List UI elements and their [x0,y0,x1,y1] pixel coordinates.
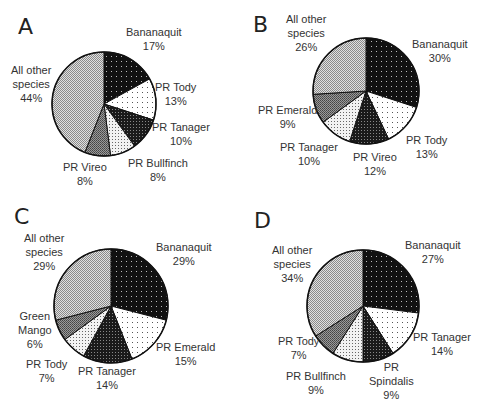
panel-letter-b: B [253,12,268,37]
label-a-pr-bullfinch: PR Bullfinch8% [128,156,188,184]
label-b-pr-tody: PR Tody13% [406,133,447,161]
label-c-all-other-species: All otherspecies29% [24,231,64,273]
label-b-pr-emerald: PR Emerald9% [258,103,317,131]
label-c-pr-tody: PR Tody7% [26,357,67,385]
label-d-bananaquit: Bananaquit27% [405,238,461,266]
label-d-all-other-species: All otherspecies34% [272,243,312,285]
label-a-pr-tody: PR Tody13% [155,80,196,108]
label-d-pr-tody: PR Tody7% [278,334,319,362]
label-a-bananaquit: Bananaquit17% [126,25,182,53]
label-d-pr-tanager: PR Tanager14% [413,330,471,358]
label-c-green-mango: GreenMango6% [18,309,52,351]
pie-chart-a [52,52,156,156]
pie-chart-d [307,250,419,362]
label-a-pr-tanager: PR Tanager10% [152,120,210,148]
label-a-pr-vireo: PR Vireo8% [63,160,107,188]
label-b-pr-vireo: PR Vireo12% [353,150,397,178]
label-a-all-other-species: All otherspecies44% [11,63,51,105]
pie-chart-c [54,249,168,363]
label-b-bananaquit: Bananaquit30% [412,37,468,65]
label-c-pr-emerald: PR Emerald15% [156,340,215,368]
label-d-pr-bullfinch: PR Bullfinch9% [286,369,346,397]
label-d-pr-spindalis: PRSpindalis9% [369,360,414,402]
panel-letter-a: A [18,14,33,39]
label-b-all-other-species: All otherspecies26% [286,12,326,54]
pie-charts-canvas [0,0,479,415]
label-b-pr-tanager: PR Tanager10% [280,140,338,168]
label-c-pr-tanager: PR Tanager14% [78,364,136,392]
pie-chart-b [313,38,419,144]
panel-letter-d: D [254,208,271,233]
label-c-bananaquit: Bananaquit29% [156,240,212,268]
panel-letter-c: C [14,204,29,229]
